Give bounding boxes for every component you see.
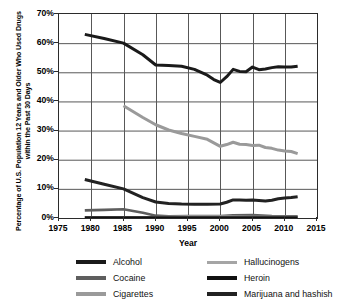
legend-label-alcohol: Alcohol: [113, 257, 142, 267]
x-tickmark: [219, 217, 220, 221]
legend-item-cigarettes: Cigarettes: [76, 287, 153, 301]
y-tickmark: [54, 188, 58, 189]
y-tick-label: 30%: [14, 125, 54, 134]
legend-label-cigarettes: Cigarettes: [113, 289, 153, 299]
legend-swatch-cocaine: [76, 276, 106, 280]
y-tickmark: [54, 42, 58, 43]
legend-swatch-cigarettes: [76, 292, 106, 296]
chart-legend: AlcoholCocaineCigarettesHallucinogensHer…: [76, 255, 326, 301]
y-tickmark: [54, 130, 58, 131]
series-line-alcohol: [85, 34, 298, 82]
series-line-cigarettes: [124, 106, 298, 154]
legend-item-hallucinogens: Hallucinogens: [207, 255, 299, 269]
legend-item-heroin: Heroin: [207, 271, 270, 285]
legend-label-marijuana-and-hashish: Marijuana and hashish: [244, 289, 333, 299]
legend-item-marijuana-and-hashish: Marijuana and hashish: [207, 287, 333, 301]
y-tick-label: 60%: [14, 38, 54, 47]
legend-swatch-hallucinogens: [207, 261, 237, 264]
data-series-layer: [59, 14, 317, 218]
y-tick-label: 10%: [14, 183, 54, 192]
legend-label-hallucinogens: Hallucinogens: [244, 257, 299, 267]
y-tickmark: [54, 100, 58, 101]
x-tickmark: [187, 217, 188, 221]
x-tickmark: [252, 217, 253, 221]
x-tickmark: [123, 217, 124, 221]
legend-label-heroin: Heroin: [244, 273, 270, 283]
legend-item-alcohol: Alcohol: [76, 255, 142, 269]
legend-swatch-marijuana-and-hashish: [207, 292, 237, 296]
x-axis-title: Year: [58, 238, 318, 248]
x-tickmark: [284, 217, 285, 221]
legend-swatch-heroin: [207, 276, 237, 280]
legend-item-cocaine: Cocaine: [76, 271, 145, 285]
legend-swatch-alcohol: [76, 260, 106, 264]
x-tick-label: 2015: [296, 224, 336, 233]
x-tickmark: [58, 217, 59, 221]
series-line-cocaine: [85, 209, 298, 216]
y-tick-label: 70%: [14, 9, 54, 18]
y-tick-label: 0%: [14, 213, 54, 222]
x-tickmark: [90, 217, 91, 221]
x-tickmark: [316, 217, 317, 221]
plot-area: [58, 13, 318, 219]
y-tick-label: 40%: [14, 96, 54, 105]
x-tickmark: [155, 217, 156, 221]
chart-figure: Percentage of U.S. Population 12 Years a…: [0, 0, 337, 304]
y-tick-label: 20%: [14, 154, 54, 163]
y-tickmark: [54, 71, 58, 72]
series-line-marijuana-and-hashish: [85, 180, 298, 205]
legend-label-cocaine: Cocaine: [113, 273, 145, 283]
y-tick-label: 50%: [14, 67, 54, 76]
y-tickmark: [54, 13, 58, 14]
y-tickmark: [54, 159, 58, 160]
